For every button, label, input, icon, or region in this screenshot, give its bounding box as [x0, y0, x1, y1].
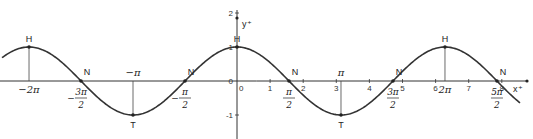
y-tick-label: 2: [229, 9, 234, 18]
fraction-numerator: π: [181, 87, 189, 97]
x-tick-label: 3: [334, 84, 339, 93]
point-min: [339, 113, 343, 117]
fraction-sign: −: [67, 93, 75, 103]
pi-fraction-label: 5π2: [491, 87, 504, 110]
point-label: N: [188, 67, 195, 77]
point-min: [131, 113, 135, 117]
y-axis-arrow-icon: [235, 16, 238, 19]
x-tick-label: 7: [466, 84, 471, 93]
fraction-sign: −: [171, 93, 179, 103]
point-label: N: [396, 67, 403, 77]
y-tick-label: -1: [226, 111, 234, 120]
pi-fraction-label: 3π2: [387, 87, 400, 110]
point-zero: [495, 79, 499, 83]
y-axis-label: y⁺: [242, 19, 252, 29]
point-zero: [79, 79, 83, 83]
fraction-denominator: 2: [493, 100, 500, 110]
x-tick-label: 5: [400, 84, 405, 93]
x-axis-arrow-icon: [525, 79, 528, 82]
pi-fraction-label: 3π2−: [67, 87, 88, 110]
pi-label: 2π: [438, 84, 452, 95]
pi-label: −π: [126, 67, 141, 78]
pi-label: π: [337, 67, 345, 78]
x-tick-label: 4: [367, 84, 372, 93]
fraction-numerator: 3π: [387, 87, 400, 97]
pi-fraction-label: π2−: [171, 87, 191, 110]
point-max: [235, 45, 239, 49]
axes: x⁺y⁺: [0, 10, 529, 139]
fraction-denominator: 2: [389, 100, 396, 110]
y-tick-label: 1: [229, 43, 234, 52]
ticks: 012345678210-1: [226, 9, 505, 120]
pi-labels: −2π3π2−−ππ2−π2π3π22π5π2: [18, 67, 504, 110]
point-zero: [391, 79, 395, 83]
fraction-denominator: 2: [77, 100, 84, 110]
point-label: N: [292, 67, 299, 77]
pi-fraction-label: π2: [283, 87, 295, 110]
fraction-numerator: 5π: [491, 87, 504, 97]
pi-label: −2π: [18, 84, 40, 95]
point-max: [443, 45, 447, 49]
x-tick-label: 1: [268, 84, 273, 93]
point-label: N: [500, 67, 507, 77]
point-label: N: [84, 67, 91, 77]
cosine-chart: x⁺y⁺ 012345678210-1 −2π3π2−−ππ2−π2π3π22π…: [0, 0, 533, 139]
fraction-numerator: 3π: [75, 87, 88, 97]
fraction-numerator: π: [285, 87, 293, 97]
point-label: H: [442, 34, 449, 44]
x-axis-label: x⁺: [513, 84, 523, 94]
point-max: [27, 45, 31, 49]
point-label: H: [234, 34, 241, 44]
point-zero: [287, 79, 291, 83]
fraction-denominator: 2: [285, 100, 292, 110]
fraction-denominator: 2: [181, 100, 188, 110]
x-tick-label: 2: [301, 84, 306, 93]
point-label: H: [26, 34, 33, 44]
point-zero: [183, 79, 187, 83]
point-label: T: [130, 120, 136, 130]
x-tick-label: 0: [239, 84, 244, 93]
point-label: T: [338, 120, 344, 130]
y-tick-label: 0: [229, 77, 234, 86]
